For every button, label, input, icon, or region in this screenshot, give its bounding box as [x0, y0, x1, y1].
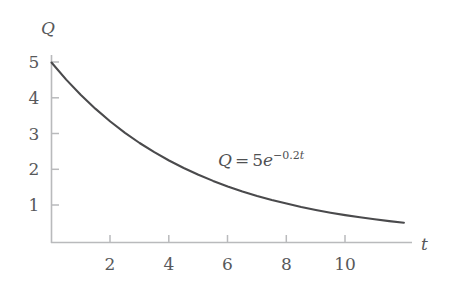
y-tick-label-5: 5: [26, 54, 42, 71]
equation-exponent-sign: −: [273, 149, 282, 162]
x-tick-label-10: 10: [331, 256, 359, 273]
decay-curve: [52, 63, 404, 223]
equation-coefficient: 5: [252, 150, 263, 170]
y-tick-label-4: 4: [26, 90, 42, 107]
equation-base: e: [263, 150, 273, 170]
y-axis-label: Q: [41, 20, 55, 37]
plot-area: [0, 0, 457, 296]
y-axis-ticks: [52, 62, 60, 205]
y-tick-label-1: 1: [26, 197, 42, 214]
equation-operator: =: [232, 150, 252, 170]
x-tick-label-4: 4: [159, 256, 179, 273]
equation-lhs: Q: [218, 150, 232, 170]
curve-equation-annotation: Q=5e−0.2t: [218, 152, 304, 169]
equation-exponent-variable: t: [300, 149, 304, 162]
x-axis-label: t: [421, 236, 428, 253]
y-tick-label-3: 3: [26, 126, 42, 143]
x-tick-label-6: 6: [218, 256, 238, 273]
x-axis-ticks: [110, 235, 345, 243]
equation-exponent: −0.2t: [273, 149, 304, 162]
equation-exponent-rate: 0.2: [282, 149, 300, 162]
x-tick-label-8: 8: [276, 256, 296, 273]
y-tick-label-2: 2: [26, 161, 42, 178]
x-tick-label-2: 2: [100, 256, 120, 273]
exponential-decay-chart: Q t 5 4 3 2 1 2 4 6 8 10 Q=5e−0.2t: [0, 0, 457, 296]
